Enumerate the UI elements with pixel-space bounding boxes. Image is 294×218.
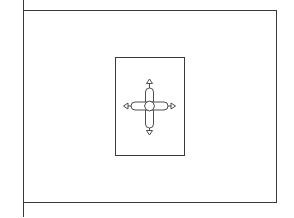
flag-drawing [0, 0, 294, 218]
cross-emblem-icon [124, 79, 176, 135]
flag-diagram: Line drawing of a rectangular flag on a … [0, 0, 294, 218]
